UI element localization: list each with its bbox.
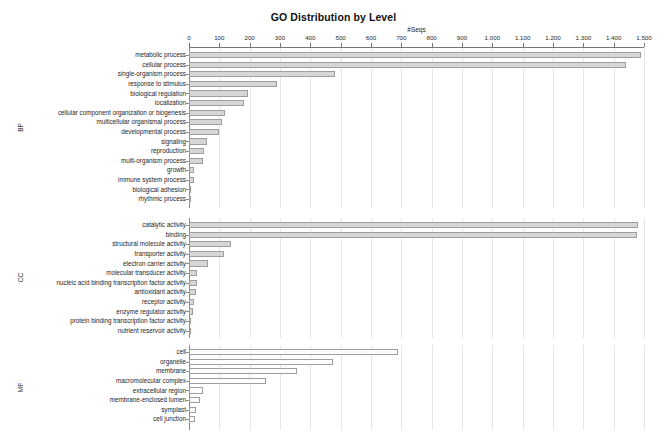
bar (189, 387, 203, 393)
x-axis-tick-labels: 01002003004005006007008009001.0001.1001.… (0, 34, 667, 46)
chart-row: antioxidant activity (0, 289, 667, 299)
panel-cc: CCcatalytic activitybindingstructural mo… (0, 218, 667, 338)
category-label: antioxidant activity (135, 288, 186, 296)
x-tick-mark (219, 43, 220, 47)
bar (189, 318, 191, 324)
bar (189, 308, 193, 314)
category-label: cell junction (153, 415, 186, 423)
category-label: electron carrier activity (123, 260, 186, 268)
category-label: developmental process (121, 128, 186, 136)
bar (189, 241, 231, 247)
bar (189, 148, 204, 154)
x-tick-mark (189, 43, 190, 47)
chart-row: protein binding transcription factor act… (0, 318, 667, 328)
chart-row: rhythmic process (0, 196, 667, 206)
chart-row: biological regulation (0, 90, 667, 100)
bar (189, 260, 208, 266)
chart-row: reproduction (0, 148, 667, 158)
chart-row: cell junction (0, 416, 667, 426)
x-tick-label: 800 (426, 34, 436, 41)
category-label: metabolic process (135, 51, 186, 59)
category-label: membrane (156, 367, 186, 375)
category-label: localization (155, 99, 186, 107)
category-label: macromolecular complex (116, 377, 186, 385)
category-label: single-organism process (118, 70, 186, 78)
bar (189, 90, 248, 96)
x-tick-mark (250, 43, 251, 47)
category-label: immune system process (118, 176, 186, 184)
category-label: binding (166, 231, 186, 239)
category-label: nucleic acid binding transcription facto… (57, 279, 187, 287)
category-label: molecular transducer activity (106, 269, 186, 277)
x-tick-label: 1.500 (636, 34, 651, 41)
bar (189, 186, 191, 192)
chart-row: symplast (0, 407, 667, 417)
page-title: GO Distribution by Level (0, 11, 667, 23)
chart-row: single-organism process (0, 71, 667, 81)
category-label: nutrient reservoir activity (118, 327, 186, 335)
bar (189, 100, 244, 106)
x-tick-label: 0 (187, 34, 190, 41)
x-tick-mark (614, 43, 615, 47)
category-label: growth (167, 166, 186, 174)
chart-row: organelle (0, 359, 667, 369)
category-label: biological adhesion (132, 186, 186, 194)
bar (189, 328, 191, 334)
category-label: rhythmic process (138, 195, 186, 203)
x-tick-label: 600 (366, 34, 376, 41)
x-tick-mark (462, 43, 463, 47)
category-label: enzyme regulator activity (116, 308, 186, 316)
x-tick-mark (523, 43, 524, 47)
chart-row: binding (0, 232, 667, 242)
bar (189, 177, 194, 183)
category-label: cellular process (142, 61, 186, 69)
bar (189, 196, 191, 202)
x-tick-mark (644, 43, 645, 47)
category-label: organelle (160, 358, 186, 366)
x-tick-mark (583, 43, 584, 47)
chart-row: membrane (0, 368, 667, 378)
bar (189, 167, 194, 173)
bar (189, 299, 194, 305)
bar (189, 359, 333, 365)
x-tick-mark (553, 43, 554, 47)
x-tick-label: 200 (244, 34, 254, 41)
category-label: extracellular region (133, 387, 186, 395)
chart-row: response to stimulus (0, 81, 667, 91)
chart-row: multicellular organismal process (0, 119, 667, 129)
bar (189, 378, 266, 384)
panel-mf: MFcellorganellemembranemacromolecular co… (0, 345, 667, 430)
chart-row: signaling (0, 138, 667, 148)
bar (189, 407, 196, 413)
chart-row: extracellular region (0, 387, 667, 397)
bar (189, 110, 225, 116)
bar (189, 289, 196, 295)
x-tick-label: 700 (396, 34, 406, 41)
category-label: cellular component organization or bioge… (58, 109, 186, 117)
chart-row: membrane-enclosed lumen (0, 397, 667, 407)
bar (189, 251, 224, 257)
category-label: response to stimulus (128, 80, 186, 88)
bar (189, 119, 222, 125)
x-tick-mark (401, 43, 402, 47)
go-distribution-chart: GO Distribution by Level #Seqs 010020030… (0, 0, 667, 448)
chart-row: electron carrier activity (0, 260, 667, 270)
category-label: cell (177, 348, 186, 356)
x-tick-mark (341, 43, 342, 47)
chart-row: developmental process (0, 129, 667, 139)
x-tick-label: 300 (275, 34, 285, 41)
bar (189, 52, 641, 58)
chart-row: catalytic activity (0, 222, 667, 232)
chart-row: structural molecule activity (0, 241, 667, 251)
x-tick-label: 1.000 (485, 34, 500, 41)
bar (189, 270, 197, 276)
category-label: catalytic activity (142, 221, 186, 229)
bar (189, 397, 200, 403)
category-label: protein binding transcription factor act… (70, 317, 186, 325)
chart-row: biological adhesion (0, 186, 667, 196)
category-label: reproduction (151, 147, 186, 155)
category-label: multi-organism process (121, 157, 186, 165)
chart-row: nucleic acid binding transcription facto… (0, 280, 667, 290)
x-tick-label: 1.200 (545, 34, 560, 41)
bar (189, 368, 297, 374)
